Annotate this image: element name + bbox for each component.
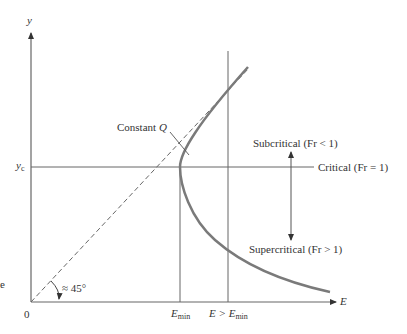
yc-label: yc <box>16 160 24 173</box>
y-axis-label: y <box>27 15 32 26</box>
angle-label: ≈ 45° <box>62 283 86 294</box>
e-axis-label: E <box>340 296 347 307</box>
subcritical-label: Subcritical (Fr < 1) <box>253 138 338 149</box>
origin-label: 0 <box>24 309 30 320</box>
e-gt-emin-label: E > Emin <box>209 308 248 321</box>
angle-arc <box>51 281 59 299</box>
specific-energy-curve <box>180 67 330 292</box>
critical-label: Critical (Fr = 1) <box>318 162 388 173</box>
emin-label: Emin <box>171 308 190 321</box>
constant-q-label: Constant Q <box>117 122 167 133</box>
supercritical-label: Supercritical (Fr > 1) <box>249 244 342 255</box>
edge-fragment-text: e <box>0 279 5 290</box>
